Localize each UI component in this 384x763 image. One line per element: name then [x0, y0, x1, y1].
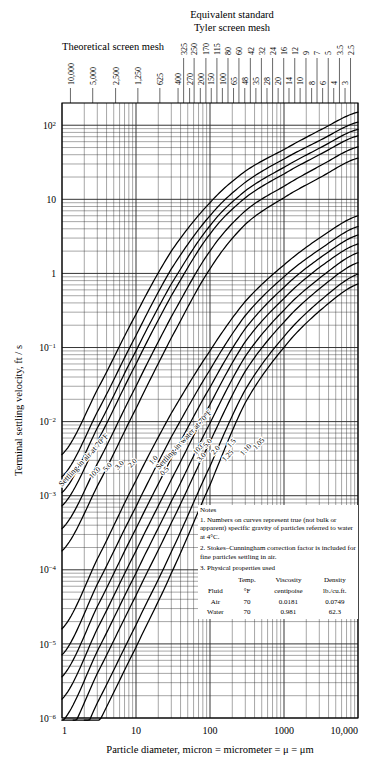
- y-tick-label: 102: [43, 119, 57, 131]
- theoretical-mesh-label: 20: [274, 77, 283, 85]
- notes-item-1: 1. Numbers on curves represent true (not…: [200, 516, 356, 542]
- tyler-mesh-label: 250: [190, 43, 199, 55]
- theoretical-mesh-label: 5,000: [89, 67, 98, 85]
- table-row: Water700.98162.3: [200, 607, 356, 618]
- y-tick-label: 10−5: [39, 638, 56, 650]
- mesh-scales: 325250170115806042322416129753.52.510,00…: [67, 43, 356, 103]
- tyler-mesh-label: 32: [258, 47, 267, 55]
- tyler-mesh-label: 170: [202, 43, 211, 55]
- tyler-screen-mesh-title-line2: Tyler screen mesh: [194, 22, 271, 33]
- notes-item-3: 3. Physical properties used: [200, 564, 356, 573]
- curve-label-air-5.0: 5.0: [101, 460, 114, 473]
- theoretical-mesh-label: 10: [296, 77, 305, 85]
- curve-label-air-2.0: 2.0: [126, 456, 139, 469]
- notes-item-2: 2. Stokes–Cunningham correction factor i…: [200, 544, 356, 561]
- table-header-bottom: °F: [231, 586, 263, 597]
- theoretical-mesh-label: 100: [219, 73, 228, 85]
- tyler-mesh-label: 80: [224, 47, 233, 55]
- tyler-mesh-label: 325: [180, 43, 189, 55]
- theoretical-mesh-label: 200: [197, 73, 206, 85]
- table-header-bottom: centipoise: [263, 586, 313, 597]
- y-tick-label: 10−4: [39, 564, 56, 576]
- table-cell: Air: [200, 597, 231, 608]
- table-header-bottom: lb./cu.ft.: [314, 586, 356, 597]
- theoretical-mesh-label: 150: [207, 73, 216, 85]
- table-row: Air700.01810.0749: [200, 597, 356, 608]
- theoretical-mesh-label: 2,500: [112, 67, 121, 85]
- theoretical-mesh-label: 6: [319, 81, 328, 85]
- x-tick-label: 10,000: [331, 725, 359, 736]
- table-cell: 70: [231, 607, 263, 618]
- y-tick-label: 10−3: [39, 490, 56, 502]
- tyler-mesh-label: 60: [235, 47, 244, 55]
- notes-box: Notes1. Numbers on curves represent true…: [198, 505, 358, 653]
- y-axis-label: Terminal settling velocity, ft / s: [13, 345, 24, 476]
- x-axis-label: Particle diameter, micron = micrometer =…: [106, 744, 313, 755]
- tyler-mesh-label: 2.5: [347, 45, 356, 55]
- tyler-mesh-label: 42: [247, 47, 256, 55]
- theoretical-mesh-label: 8: [308, 81, 317, 85]
- theoretical-mesh-label: 65: [230, 77, 239, 85]
- tyler-mesh-label: 115: [213, 43, 222, 55]
- table-header-top: Density: [314, 575, 356, 586]
- theoretical-mesh-label: 1,250: [134, 67, 143, 85]
- theoretical-mesh-label: 400: [174, 73, 183, 85]
- x-tick-label: 100: [203, 725, 218, 736]
- curve-water-sg-1.1: [73, 274, 358, 720]
- table-header-top: [200, 575, 231, 586]
- table-header-top: Viscosity: [263, 575, 313, 586]
- y-tick-label: 1: [51, 268, 56, 279]
- theoretical-mesh-label: 4: [330, 81, 339, 85]
- tyler-mesh-label: 9: [302, 51, 311, 55]
- notes-heading: Notes: [200, 506, 356, 515]
- theoretical-mesh-label: 35: [252, 77, 261, 85]
- x-tick-label: 10: [131, 725, 141, 736]
- x-tick-label: 1: [62, 725, 67, 736]
- settling-velocity-chart: 110100100010,000Particle diameter, micro…: [0, 0, 384, 763]
- tyler-mesh-label: 5: [324, 51, 333, 55]
- notes-content: Notes1. Numbers on curves represent true…: [198, 505, 358, 619]
- tyler-mesh-label: 16: [280, 47, 289, 55]
- y-axis-ticks: 10−610−510−410−310−210−1110102: [39, 119, 56, 723]
- tyler-mesh-label: 7: [313, 51, 322, 55]
- tyler-mesh-label: 3.5: [336, 45, 345, 55]
- x-tick-label: 1000: [274, 725, 294, 736]
- equivalent-standard-title-line1: Equivalent standard: [190, 9, 274, 20]
- table-header-bottom: Fluid: [200, 586, 231, 597]
- y-tick-label: 10−6: [39, 712, 56, 724]
- theoretical-mesh-label: 270: [186, 73, 195, 85]
- chart-svg: 110100100010,000Particle diameter, micro…: [0, 0, 384, 763]
- theoretical-screen-mesh-title: Theoretical screen mesh: [62, 41, 165, 52]
- table-cell: 0.0181: [263, 597, 313, 608]
- theoretical-mesh-label: 10,000: [67, 63, 76, 85]
- theoretical-mesh-label: 14: [285, 77, 294, 85]
- table-cell: 62.3: [314, 607, 356, 618]
- theoretical-mesh-label: 3: [341, 81, 350, 85]
- y-tick-label: 10: [46, 194, 56, 205]
- tyler-mesh-label: 12: [291, 47, 300, 55]
- tyler-mesh-label: 24: [269, 47, 278, 55]
- theoretical-mesh-label: 625: [156, 73, 165, 85]
- theoretical-mesh-label: 48: [241, 77, 250, 85]
- table-cell: 0.981: [263, 607, 313, 618]
- table-header-top: Temp.: [231, 575, 263, 586]
- curve-label-water-1.25: 1.25: [220, 448, 236, 464]
- table-cell: 70: [231, 597, 263, 608]
- properties-table: Temp.ViscosityDensityFluid°Fcentipoiselb…: [200, 575, 356, 618]
- y-tick-label: 10−1: [39, 342, 56, 354]
- theoretical-mesh-label: 28: [263, 77, 272, 85]
- x-axis-ticks: 110100100010,000: [62, 725, 358, 736]
- table-cell: Water: [200, 607, 231, 618]
- table-cell: 0.0749: [314, 597, 356, 608]
- y-tick-label: 10−2: [39, 416, 56, 428]
